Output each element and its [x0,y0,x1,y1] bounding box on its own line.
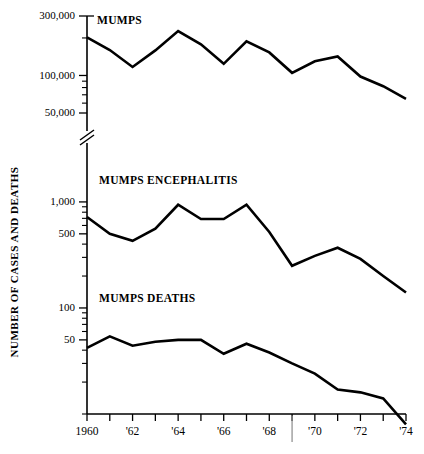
y-axis-tick-label: 1,000 [50,195,75,207]
series-line-mumps-encephalitis [87,205,406,293]
y-axis-break-mark [80,130,94,140]
y-axis-tick-label: 100,000 [39,69,75,81]
series-label-mumps: MUMPS [97,14,142,26]
x-axis-tick-label: '64 [171,425,185,437]
y-axis-tick-label: 50 [64,333,76,345]
y-axis-tick-label: 300,000 [39,9,75,21]
y-axis-title-label: NUMBER OF CASES AND DEATHS [8,167,20,358]
x-axis-tick-label: 1960 [76,425,99,437]
series-label-mumps-encephalitis: MUMPS ENCEPHALITIS [99,174,238,186]
x-axis-tick-label: '68 [262,425,276,437]
series-lines [87,31,406,424]
y-axis-tick-label: 500 [59,227,76,239]
series-label-mumps-deaths: MUMPS DEATHS [99,292,195,304]
chart-container: NUMBER OF CASES AND DEATHS 300,000100,00… [0,0,424,454]
mumps-surveillance-chart: NUMBER OF CASES AND DEATHS 300,000100,00… [0,0,424,454]
y-axis-title: NUMBER OF CASES AND DEATHS [8,167,20,358]
y-axis-tick-label: 100 [59,301,76,313]
x-axis-tick-label: '66 [217,425,231,437]
series-line-mumps [87,31,406,99]
x-axis-tick-label: '62 [126,425,140,437]
y-axis: 300,000100,00050,0001,00050010050 [39,9,94,414]
x-axis-tick-label: '74 [399,425,413,437]
y-axis-tick-label: 50,000 [45,106,76,118]
x-axis-tick-label: '72 [354,425,368,437]
x-axis: 1960'62'64'66'68'70'72'74 [76,414,414,437]
series-line-mumps-deaths [87,336,406,424]
x-axis-tick-label: '70 [308,425,322,437]
